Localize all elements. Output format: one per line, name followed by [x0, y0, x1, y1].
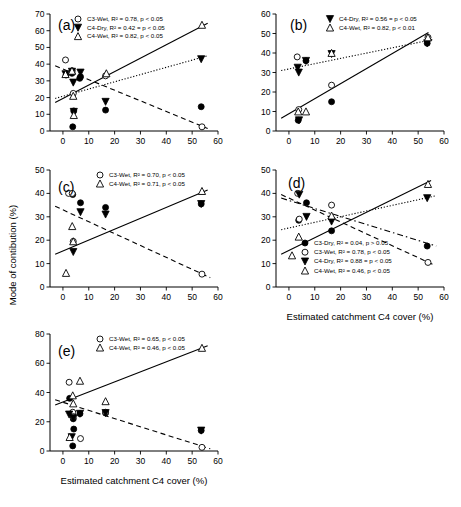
data-point	[70, 443, 76, 449]
legend-label: C3-Wet, R² = 0.65, p < 0.05	[109, 335, 185, 342]
y-tick-label-a: 60	[35, 26, 45, 36]
figure-container: 0102030405060700102030405060(a)C3-Wet, R…	[0, 0, 461, 507]
x-tick-label-c: 10	[84, 292, 94, 302]
data-point	[102, 98, 109, 105]
data-point	[424, 195, 431, 202]
data-point	[77, 209, 84, 216]
y-tick-label-b: 40	[261, 48, 271, 58]
x-tick-label-c: 30	[136, 292, 146, 302]
data-point	[63, 57, 69, 63]
legend-entry-c-1: C4-Wet, R² = 0.71, p < 0.05	[96, 180, 185, 187]
y-tick-label-d: 0	[266, 282, 271, 292]
data-point	[71, 426, 77, 432]
data-point	[198, 56, 205, 63]
y-tick-label-e: 40	[35, 388, 45, 398]
data-point	[199, 124, 205, 130]
y-tick-label-c: 10	[35, 259, 45, 269]
data-point	[102, 398, 109, 405]
data-point	[303, 213, 310, 220]
legend-marker	[326, 16, 333, 23]
legend-entry-d-2: C4-Dry, R² = 0.88 = p < 0.05	[301, 257, 392, 265]
y-tick-label-a: 0	[40, 126, 45, 136]
y-tick-label-d: 20	[261, 235, 271, 245]
legend-label: C4-Wet, R² = 0.82, p < 0.05	[87, 32, 163, 39]
legend-label: C3-Wet, R² = 0.70, p < 0.05	[109, 171, 185, 178]
legend-marker	[74, 24, 81, 31]
legend-entry-b-1: C4-Wet, R² = 0.82, p < 0.01	[326, 24, 415, 31]
x-tick-label-d: 30	[362, 292, 372, 302]
x-axis-title-e: Estimated catchment C4 cover (%)	[61, 475, 208, 486]
legend-entry-c-0: C3-Wet, R² = 0.70, p < 0.05	[97, 171, 185, 178]
legend-entry-e-0: C3-Wet, R² = 0.65, p < 0.05	[97, 335, 185, 342]
legend-entry-e-1: C4-Wet, R² = 0.46, p < 0.05	[96, 344, 185, 351]
series-e-c3-wet	[66, 379, 205, 450]
series-e-c3-dry	[67, 395, 205, 449]
y-tick-label-d: 50	[261, 165, 271, 175]
legend-entry-a-0: C3-Wet, R² = 0.78, p < 0.05	[75, 15, 163, 22]
legend-label: C3-Wet, R² = 0.78, p < 0.05	[87, 15, 163, 22]
y-tick-label-a: 20	[35, 93, 45, 103]
scatter-panel-figure: 0102030405060700102030405060(a)C3-Wet, R…	[0, 0, 461, 507]
y-tick-label-c: 0	[40, 282, 45, 292]
legend-marker	[302, 240, 308, 246]
panel-c: 010203040500102030405060(c)C3-Wet, R² = …	[35, 165, 223, 302]
fit-line-e-c3-wet	[55, 346, 207, 405]
y-tick-label-b: 50	[261, 29, 271, 39]
legend-label: C4-Dry, R² = 0.56 = p < 0.05	[339, 15, 417, 22]
data-point	[296, 216, 302, 222]
y-tick-label-d: 10	[261, 259, 271, 269]
y-tick-label-e: 0	[40, 446, 45, 456]
x-tick-label-e: 40	[162, 456, 172, 466]
x-tick-label-b: 50	[413, 136, 423, 146]
legend-entry-d-1: C3-Wet, R² = 0.78, p < 0.05	[302, 248, 390, 255]
data-point	[424, 243, 430, 249]
legend-label: C4-Wet, R² = 0.46, p < 0.05	[314, 267, 390, 274]
panel-label-c: (c)	[58, 179, 74, 195]
fit-line-c-c4-wet	[55, 190, 207, 254]
series-e-c4-dry	[66, 410, 205, 441]
legend-label: C3-Wet, R² = 0.78, p < 0.05	[314, 248, 390, 255]
legend-marker	[301, 267, 308, 274]
panel-label-a: (a)	[58, 17, 75, 33]
x-tick-label-c: 20	[110, 292, 120, 302]
y-tick-label-b: 30	[261, 68, 271, 78]
y-tick-label-c: 30	[35, 212, 45, 222]
x-tick-label-e: 50	[187, 456, 197, 466]
data-point	[198, 104, 204, 110]
legend-label: C4-Wet, R² = 0.46, p < 0.05	[109, 344, 185, 351]
panel-label-e: (e)	[58, 343, 75, 359]
x-tick-label-b: 10	[310, 136, 320, 146]
panel-b: 01020304050600102030405060(b)C4-Dry, R² …	[261, 9, 449, 146]
series-b-c3-wet	[294, 34, 431, 112]
legend-label: C4-Wet, R² = 0.82, p < 0.01	[339, 24, 415, 31]
y-tick-label-d: 30	[261, 212, 271, 222]
x-tick-label-e: 30	[136, 456, 146, 466]
x-tick-label-b: 60	[439, 136, 449, 146]
y-axis-title: Mode of contibution (%)	[7, 205, 18, 305]
x-tick-label-d: 20	[336, 292, 346, 302]
legend-marker	[97, 172, 103, 178]
y-tick-label-b: 20	[261, 87, 271, 97]
data-point	[288, 252, 295, 259]
data-point	[103, 107, 109, 113]
legend-marker	[74, 33, 81, 40]
data-point	[103, 204, 109, 210]
fit-line-c-c3-wet	[55, 206, 210, 277]
legend-marker	[301, 258, 308, 265]
data-point	[329, 99, 335, 105]
legend-entry-a-2: C4-Wet, R² = 0.82, p < 0.05	[74, 32, 163, 39]
legend-marker	[96, 344, 103, 351]
data-point	[329, 82, 335, 88]
y-tick-label-b: 10	[261, 107, 271, 117]
y-tick-label-e: 80	[35, 329, 45, 339]
x-tick-label-c: 50	[187, 292, 197, 302]
y-tick-label-e: 60	[35, 358, 45, 368]
data-point	[77, 200, 83, 206]
legend-entry-a-1: C4-Dry, R² = 0.42 = p < 0.05	[74, 24, 165, 32]
data-point	[102, 211, 109, 218]
data-point	[424, 180, 431, 187]
panel-e: 0204060800102030405060(e)C3-Wet, R² = 0.…	[35, 329, 223, 466]
legend-entry-d-3: C4-Wet, R² = 0.46, p < 0.05	[301, 267, 390, 274]
data-point	[302, 108, 309, 115]
data-point	[77, 436, 83, 442]
